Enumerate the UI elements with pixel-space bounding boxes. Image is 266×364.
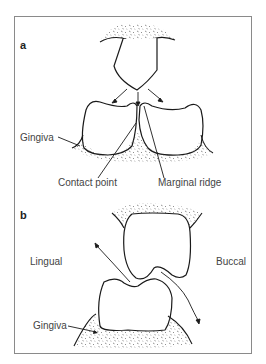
dental-diagram [0,0,266,364]
panel-a-right-tooth [139,103,203,155]
panel-a-label: a [20,40,26,51]
buccal-label: Buccal [216,257,246,267]
contact-point-label: Contact point [58,178,117,188]
panel-b-gingiva-label: Gingiva [33,321,67,331]
marginal-ridge-label: Marginal ridge [158,178,221,188]
lingual-label: Lingual [30,257,62,267]
panel-a-gingiva-label: Gingiva [20,133,54,143]
panel-a-plunger-cusp [114,38,157,90]
panel-b-label: b [20,210,27,221]
panel-b-lower-tooth [99,279,172,331]
panel-b-upper-tooth [124,213,191,279]
panel-a-arrows [112,89,163,106]
